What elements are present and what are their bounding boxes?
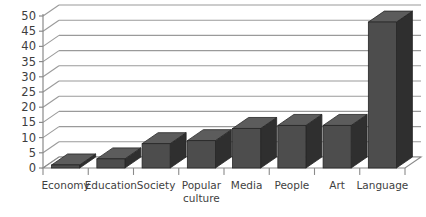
- y-axis-tick-label: 0: [29, 161, 36, 175]
- bar-front-face: [142, 144, 170, 168]
- y-axis-tick-label: 35: [21, 55, 36, 69]
- bar-front-face: [187, 141, 215, 168]
- x-axis-category-label: Society: [137, 179, 176, 191]
- bar-front-face: [97, 159, 125, 168]
- y-axis-tick-label: 50: [21, 9, 36, 23]
- bar-side-face: [396, 11, 412, 168]
- bar: [278, 114, 322, 168]
- y-axis-tick-label: 25: [21, 85, 36, 99]
- x-axis-category-label: Language: [356, 179, 408, 191]
- x-axis-category-label: Media: [231, 179, 263, 191]
- x-axis-category-label: Economy: [41, 179, 89, 191]
- bar: [368, 11, 412, 168]
- chart-canvas: 05101520253035404550 EconomyEducationSoc…: [0, 0, 426, 217]
- y-axis-tick-label: 5: [29, 146, 36, 160]
- bar-front-face: [323, 125, 351, 168]
- bar-chart: 05101520253035404550 EconomyEducationSoc…: [0, 0, 426, 217]
- y-axis-tick-label: 40: [21, 39, 36, 53]
- y-axis-tick-label: 15: [21, 115, 36, 129]
- bar-front-face: [233, 128, 261, 168]
- bar-front-face: [368, 22, 396, 168]
- bar: [233, 117, 277, 168]
- y-axis-tick-label: 45: [21, 24, 36, 38]
- x-axis-category-label: Education: [85, 179, 137, 191]
- x-axis-category-label: Art: [329, 179, 345, 191]
- y-axis-tick-label: 30: [21, 70, 36, 84]
- y-axis-tick-label: 20: [21, 100, 36, 114]
- bar: [323, 114, 367, 168]
- y-axis-tick-label: 10: [21, 131, 36, 145]
- bar-front-face: [278, 125, 306, 168]
- x-axis-category-label: Popularculture: [182, 179, 222, 204]
- x-axis-category-label: People: [274, 179, 309, 191]
- bar-front-face: [52, 165, 80, 168]
